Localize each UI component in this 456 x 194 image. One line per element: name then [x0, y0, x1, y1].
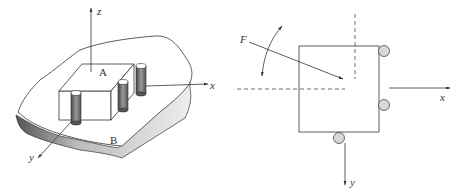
locator-mid-right: [379, 100, 390, 111]
right-figure: F x y: [237, 14, 450, 188]
y-axis-label-right: y: [349, 176, 355, 188]
force-arrow: [249, 42, 343, 79]
force-label: F: [239, 33, 247, 45]
point-b-label: B: [110, 134, 117, 146]
point-a-label: A: [99, 66, 107, 78]
block-front: [59, 91, 111, 120]
pin-back: [136, 64, 146, 97]
locator-top-right: [379, 46, 390, 57]
x-axis-label: x: [209, 79, 215, 91]
diagram-canvas: z x y A B F x y: [0, 0, 456, 194]
pin-front: [71, 91, 81, 126]
x-axis-label-right: x: [439, 91, 445, 103]
left-figure: z x y A B: [16, 5, 215, 163]
pin-middle: [118, 80, 128, 113]
z-axis-label: z: [96, 5, 102, 17]
y-axis-label: y: [28, 151, 34, 163]
locator-bottom: [334, 133, 345, 144]
